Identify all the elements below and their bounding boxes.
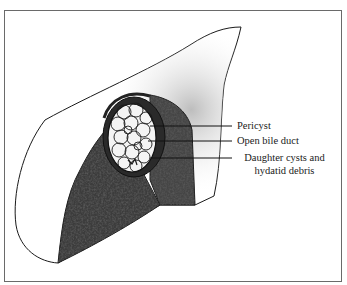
label-pericyst: Pericyst	[237, 119, 271, 132]
label-daughter-cysts-line1: Daughter cysts and	[232, 151, 337, 164]
label-daughter-cysts-line2: hydatid debris	[232, 164, 337, 177]
label-daughter-cysts: Daughter cysts and hydatid debris	[232, 151, 337, 177]
label-open-bile-duct: Open bile duct	[237, 134, 299, 147]
